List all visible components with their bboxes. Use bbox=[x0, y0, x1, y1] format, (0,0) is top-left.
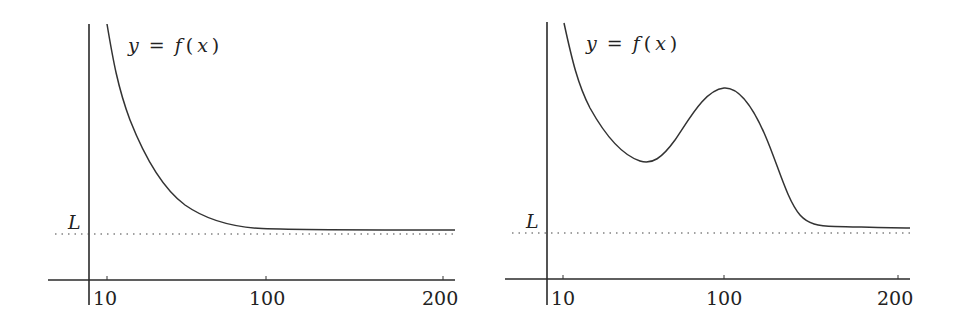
right-curve-label: y = f ( x ) bbox=[585, 32, 677, 54]
right-tick-label-10: 10 bbox=[551, 287, 575, 309]
chart-canvas: 10 100 200 L y = f ( x ) 10 100 200 L y … bbox=[0, 0, 955, 323]
right-asymptote-label: L bbox=[525, 210, 539, 232]
right-chart: 10 100 200 L y = f ( x ) bbox=[505, 22, 913, 309]
left-chart: 10 100 200 L y = f ( x ) bbox=[48, 24, 458, 309]
left-tick-label-100: 100 bbox=[249, 287, 285, 309]
left-tick-label-200: 200 bbox=[422, 287, 458, 309]
right-tick-label-100: 100 bbox=[706, 287, 742, 309]
right-tick-label-200: 200 bbox=[877, 287, 913, 309]
left-curve-label: y = f ( x ) bbox=[127, 34, 219, 56]
left-tick-label-10: 10 bbox=[93, 287, 117, 309]
left-asymptote-label: L bbox=[67, 211, 81, 233]
